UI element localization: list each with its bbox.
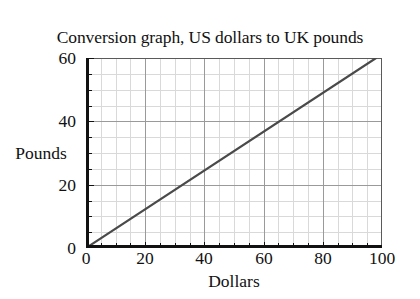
chart-title: Conversion graph, US dollars to UK pound… <box>0 27 420 48</box>
xtick-label-100: 100 <box>352 249 412 267</box>
conversion-graph-figure: Conversion graph, US dollars to UK pound… <box>0 0 420 299</box>
plot-svg <box>86 58 382 248</box>
ytick-label-60: 60 <box>30 49 76 67</box>
xtick-label-40: 40 <box>174 249 234 267</box>
x-axis-label: Dollars <box>86 271 382 291</box>
ytick-label-40: 40 <box>30 112 76 130</box>
xtick-label-20: 20 <box>115 249 175 267</box>
ytick-label-20: 20 <box>30 176 76 194</box>
plot-area <box>86 58 382 248</box>
xtick-label-80: 80 <box>293 249 353 267</box>
y-axis-label: Pounds <box>2 143 80 163</box>
xtick-label-0: 0 <box>56 249 116 267</box>
xtick-label-60: 60 <box>234 249 294 267</box>
